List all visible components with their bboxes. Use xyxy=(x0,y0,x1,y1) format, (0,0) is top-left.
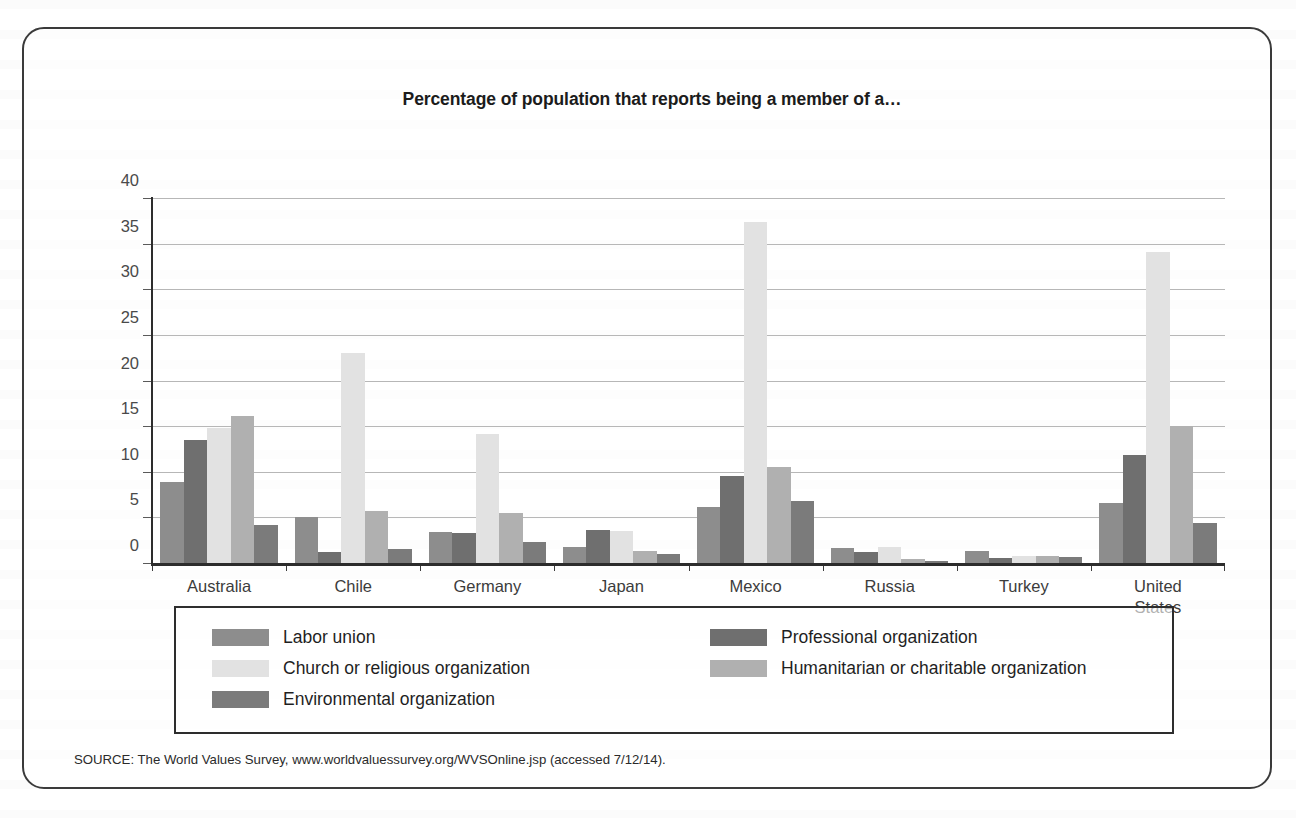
x-axis-category-label: Turkey xyxy=(957,576,1091,597)
legend-column-left: Labor unionChurch or religious organizat… xyxy=(176,622,674,732)
bar xyxy=(720,476,743,564)
x-axis-category-label: Australia xyxy=(152,576,286,597)
bar xyxy=(878,547,901,564)
bar xyxy=(476,434,499,564)
y-axis-tick-label: 30 xyxy=(121,262,139,281)
source-note: SOURCE: The World Values Survey, www.wor… xyxy=(74,752,666,767)
x-axis-category-label: Germany xyxy=(420,576,554,597)
bar xyxy=(1099,503,1122,564)
y-axis-tick-label: 40 xyxy=(121,171,139,190)
bar xyxy=(295,517,318,564)
bar xyxy=(452,533,475,564)
x-axis-category-label: Chile xyxy=(286,576,420,597)
legend-item: Labor union xyxy=(212,622,674,653)
y-axis-line xyxy=(151,197,153,564)
bar xyxy=(341,353,364,564)
bar xyxy=(1123,455,1146,564)
legend-item: Professional organization xyxy=(710,622,1172,653)
bar-group: Chile xyxy=(286,199,420,564)
plot-region: 0510152025303540 AustraliaChileGermanyJa… xyxy=(152,199,1225,564)
y-axis-tick-label: 0 xyxy=(130,536,139,555)
legend-swatch xyxy=(710,660,767,677)
y-axis-tick-label: 10 xyxy=(121,444,139,463)
bar-group: Russia xyxy=(823,199,957,564)
legend-item: Environmental organization xyxy=(212,684,674,715)
x-axis-category-label: Russia xyxy=(823,576,957,597)
bar xyxy=(767,467,790,564)
legend-label: Labor union xyxy=(283,627,375,648)
bar xyxy=(231,416,254,564)
legend-label: Environmental organization xyxy=(283,689,495,710)
x-axis-category-label: Mexico xyxy=(689,576,823,597)
bar xyxy=(160,482,183,564)
bar xyxy=(388,549,411,564)
x-axis-line xyxy=(151,563,1225,566)
legend-item: Humanitarian or charitable organization xyxy=(710,653,1172,684)
bar xyxy=(1193,523,1216,564)
bar xyxy=(1170,426,1193,564)
y-axis-tick-label: 20 xyxy=(121,353,139,372)
bar xyxy=(744,222,767,564)
bar-group: UnitedStates xyxy=(1091,199,1225,564)
legend-label: Church or religious organization xyxy=(283,658,530,679)
bar-group: Japan xyxy=(554,199,688,564)
bar-groups: AustraliaChileGermanyJapanMexicoRussiaTu… xyxy=(152,199,1225,564)
bar-group: Turkey xyxy=(957,199,1091,564)
bar xyxy=(184,440,207,564)
bar xyxy=(207,428,230,564)
y-axis-tick-label: 5 xyxy=(130,490,139,509)
bar-group: Australia xyxy=(152,199,286,564)
chart-title: Percentage of population that reports be… xyxy=(72,89,1232,110)
y-axis-tick-label: 15 xyxy=(121,399,139,418)
y-axis-tick-label: 35 xyxy=(121,216,139,235)
bar xyxy=(1146,252,1169,564)
legend-swatch xyxy=(212,629,269,646)
legend-label: Professional organization xyxy=(781,627,978,648)
bar xyxy=(697,507,720,564)
bar xyxy=(499,513,522,564)
figure-frame: Percentage of population that reports be… xyxy=(22,27,1272,789)
legend-item: Church or religious organization xyxy=(212,653,674,684)
bar xyxy=(831,548,854,564)
x-axis-category-label: Japan xyxy=(554,576,688,597)
y-axis-tick-label: 25 xyxy=(121,307,139,326)
bar xyxy=(254,525,277,564)
legend-swatch xyxy=(212,691,269,708)
bar xyxy=(563,547,586,564)
legend-swatch xyxy=(212,660,269,677)
chart-legend: Labor unionChurch or religious organizat… xyxy=(174,606,1174,734)
legend-label: Humanitarian or charitable organization xyxy=(781,658,1086,679)
bar-group: Mexico xyxy=(689,199,823,564)
bar xyxy=(429,532,452,564)
bar-group: Germany xyxy=(420,199,554,564)
bar xyxy=(523,542,546,564)
legend-column-right: Professional organizationHumanitarian or… xyxy=(674,622,1172,732)
legend-swatch xyxy=(710,629,767,646)
bar xyxy=(791,501,814,564)
chart-area: Percentage of population that reports be… xyxy=(72,89,1232,579)
bar xyxy=(365,511,388,564)
bar xyxy=(610,531,633,564)
bar xyxy=(586,530,609,564)
